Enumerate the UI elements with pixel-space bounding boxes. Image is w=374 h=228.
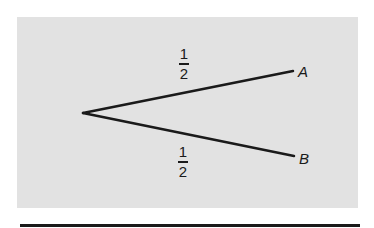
node-label-b: B xyxy=(299,150,309,167)
tree-branches xyxy=(0,0,374,228)
denominator: 2 xyxy=(180,65,188,82)
numerator: 1 xyxy=(179,143,187,160)
branch-a-probability: 1 2 xyxy=(174,46,194,82)
numerator: 1 xyxy=(180,45,188,62)
bottom-rule xyxy=(20,224,360,227)
denominator: 2 xyxy=(179,163,187,180)
branch-b-probability: 1 2 xyxy=(173,144,193,180)
node-label-a: A xyxy=(298,63,308,80)
